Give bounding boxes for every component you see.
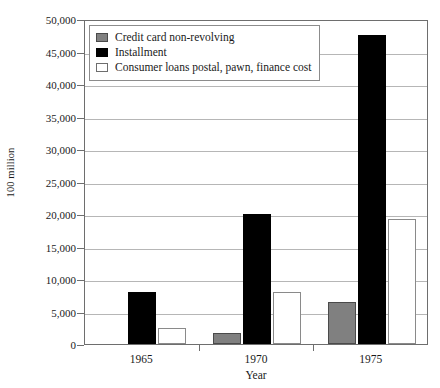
legend-label: Credit card non-revolving	[115, 31, 234, 44]
y-axis-tick-mark	[77, 118, 84, 119]
bar-chart: 100 million 05,00010,00015,00020,00025,0…	[0, 0, 440, 388]
y-axis-tick-mark	[77, 345, 84, 346]
bar	[243, 214, 271, 344]
legend-item: Consumer loans postal, pawn, finance cos…	[96, 60, 311, 75]
bar	[158, 328, 186, 344]
y-axis-tick-mark	[77, 20, 84, 21]
y-axis-title-label: 100 million	[6, 148, 17, 198]
x-axis-tick-mark	[199, 345, 200, 351]
y-axis-tick-mark	[77, 313, 84, 314]
x-axis-tick-label: 1975	[331, 353, 411, 365]
y-axis-tick-mark	[77, 85, 84, 86]
y-axis-tick-label: 10,000	[16, 275, 76, 286]
legend-item: Credit card non-revolving	[96, 30, 311, 45]
x-axis-tick-label: 1965	[101, 353, 181, 365]
bar	[328, 302, 356, 344]
legend-swatch-icon	[96, 63, 108, 72]
legend-swatch-icon	[96, 33, 108, 42]
bar	[358, 35, 386, 344]
x-axis-tick-mark	[313, 345, 314, 351]
y-axis-tick-label: 15,000	[16, 242, 76, 253]
bar	[273, 292, 301, 344]
y-axis-tick-label: 35,000	[16, 112, 76, 123]
x-axis-tick-label: 1970	[216, 353, 296, 365]
legend-label: Consumer loans postal, pawn, finance cos…	[115, 61, 311, 74]
legend-swatch-icon	[96, 48, 108, 57]
y-axis-tick-label: 50,000	[16, 15, 76, 26]
y-axis-tick-label: 40,000	[16, 80, 76, 91]
y-axis-tick-mark	[77, 215, 84, 216]
bar	[213, 333, 241, 344]
legend-label: Installment	[115, 46, 167, 59]
bar	[388, 219, 416, 344]
bar	[128, 292, 156, 344]
y-axis-tick-label: 45,000	[16, 47, 76, 58]
y-axis-tick-label: 20,000	[16, 210, 76, 221]
legend-item: Installment	[96, 45, 311, 60]
y-axis-tick-label: 5,000	[16, 307, 76, 318]
y-axis-tick-label: 25,000	[16, 177, 76, 188]
y-axis-tick-label: 30,000	[16, 145, 76, 156]
y-axis-tick-mark	[77, 248, 84, 249]
y-axis-tick-mark	[77, 183, 84, 184]
x-axis-title: Year	[84, 369, 428, 381]
y-axis-tick-mark	[77, 53, 84, 54]
y-axis-tick-label: 0	[16, 340, 76, 351]
chart-legend: Credit card non-revolvingInstallmentCons…	[89, 25, 320, 81]
bar-group-1975	[328, 21, 416, 344]
y-axis-tick-mark	[77, 280, 84, 281]
y-axis-tick-mark	[77, 150, 84, 151]
